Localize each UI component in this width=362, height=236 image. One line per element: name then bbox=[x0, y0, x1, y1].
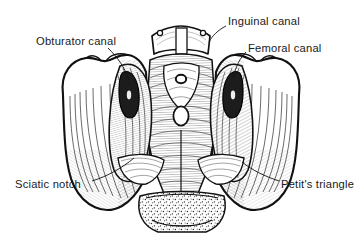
pubic-symphysis bbox=[152, 26, 210, 54]
label-petits-triangle: Petit's triangle bbox=[281, 179, 354, 190]
label-inguinal-canal: Inguinal canal bbox=[228, 16, 300, 27]
anatomical-illustration: Obturator canal Inguinal canal Femoral c… bbox=[0, 0, 362, 236]
label-sciatic-notch: Sciatic notch bbox=[15, 179, 81, 190]
oval-foramen bbox=[173, 106, 188, 125]
left-pubic-tubercle bbox=[157, 30, 162, 35]
central-ring-aperture bbox=[176, 75, 186, 83]
label-femoral-canal: Femoral canal bbox=[248, 43, 321, 54]
label-obturator-canal: Obturator canal bbox=[36, 36, 116, 47]
right-pubic-tubercle bbox=[200, 30, 205, 35]
